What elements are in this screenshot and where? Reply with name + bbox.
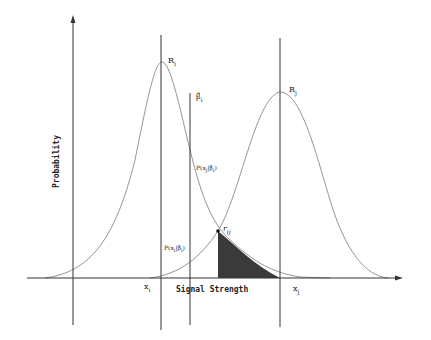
curve-rj (150, 92, 388, 278)
p-upper-a: P(x (196, 164, 206, 171)
p-lower-e: ) (182, 244, 184, 251)
label-beta-sub: i (201, 96, 203, 103)
label-beta: β̂i (196, 92, 203, 103)
y-axis-arrow (71, 15, 76, 23)
label-ri: Ri (168, 56, 176, 67)
label-rij-sub: ij (227, 228, 231, 235)
tick-xi: xi (144, 282, 150, 293)
intersection-point (216, 229, 220, 233)
label-rij: rij (223, 224, 231, 235)
y-axis-title: Probability (52, 135, 61, 188)
label-rj: Rj (289, 85, 297, 96)
tick-xj: xj (293, 284, 299, 295)
x-axis-title: Signal Strength (176, 285, 248, 294)
x-axis-arrow (395, 276, 403, 281)
label-p-upper: P(xj|β̂i) (196, 164, 217, 173)
tick-xi-sub: i (149, 286, 151, 293)
p-lower-a: P(x (164, 244, 174, 251)
tick-xj-sub: j (298, 288, 300, 295)
label-rj-sub: j (295, 89, 297, 96)
p-upper-e: ) (214, 164, 216, 171)
label-p-lower: P(xi|β̂i) (164, 244, 185, 253)
label-ri-sub: i (174, 60, 176, 67)
